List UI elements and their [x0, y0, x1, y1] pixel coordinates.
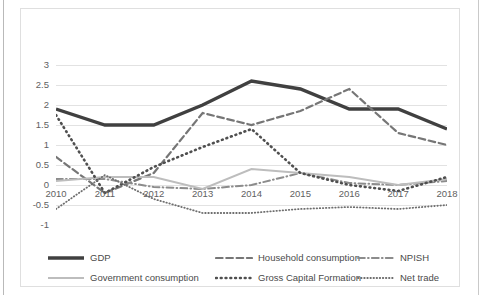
x-tick-label: 2015 — [280, 189, 320, 199]
legend-swatch-icon — [47, 252, 85, 264]
legend-item-npish[interactable]: NPISH — [357, 249, 429, 266]
x-tick-label: 2017 — [378, 189, 418, 199]
plot-svg — [56, 65, 447, 225]
x-tick-label: 2012 — [134, 189, 174, 199]
legend-row-2: Government consumptionGross Capital Form… — [47, 269, 471, 286]
legend-label: NPISH — [400, 252, 429, 264]
legend-label: GDP — [90, 252, 111, 264]
legend-label: Government consumption — [90, 272, 199, 284]
page-margin-rule-left — [3, 0, 4, 295]
y-tick-label: 2.5 — [25, 80, 49, 90]
legend-swatch-icon — [215, 272, 253, 284]
x-tick-label: 2014 — [232, 189, 272, 199]
page-canvas: 32.521.510.50-0.5-1 20102011201220132014… — [0, 0, 482, 295]
chart-frame: 32.521.510.50-0.5-1 20102011201220132014… — [20, 8, 460, 287]
y-tick-label: 2 — [25, 100, 49, 110]
legend-row-1: GDPHousehold consumptionNPISH — [47, 249, 471, 266]
legend-label: Household consumption — [258, 252, 360, 264]
x-tick-label: 2013 — [183, 189, 223, 199]
y-tick-label: 0.5 — [25, 160, 49, 170]
legend-swatch-icon — [357, 272, 395, 284]
legend-item-household-consumption[interactable]: Household consumption — [215, 249, 360, 266]
x-tick-label: 2018 — [427, 189, 467, 199]
legend-item-gdp[interactable]: GDP — [47, 249, 111, 266]
legend-swatch-icon — [357, 252, 395, 264]
legend-swatch-icon — [215, 252, 253, 264]
series-line-npish — [56, 173, 447, 189]
x-tick-label: 2011 — [85, 189, 125, 199]
y-tick-label: 1.5 — [25, 120, 49, 130]
chart-legend: GDPHousehold consumptionNPISH Government… — [47, 249, 471, 291]
page-margin-rule-right — [478, 0, 479, 295]
legend-label: Net trade — [400, 272, 439, 284]
x-tick-label: 2016 — [329, 189, 369, 199]
legend-swatch-icon — [47, 272, 85, 284]
y-tick-label: -0.5 — [25, 200, 49, 210]
plot-area — [56, 65, 447, 225]
x-tick-label: 2010 — [36, 189, 76, 199]
legend-item-government-consumption[interactable]: Government consumption — [47, 269, 199, 286]
y-tick-label: 3 — [25, 60, 49, 70]
legend-item-net-trade[interactable]: Net trade — [357, 269, 439, 286]
y-tick-label: 1 — [25, 140, 49, 150]
legend-item-gross-capital-formation[interactable]: Gross Capital Formation — [215, 269, 361, 286]
legend-label: Gross Capital Formation — [258, 272, 361, 284]
y-tick-label: -1 — [25, 220, 49, 230]
